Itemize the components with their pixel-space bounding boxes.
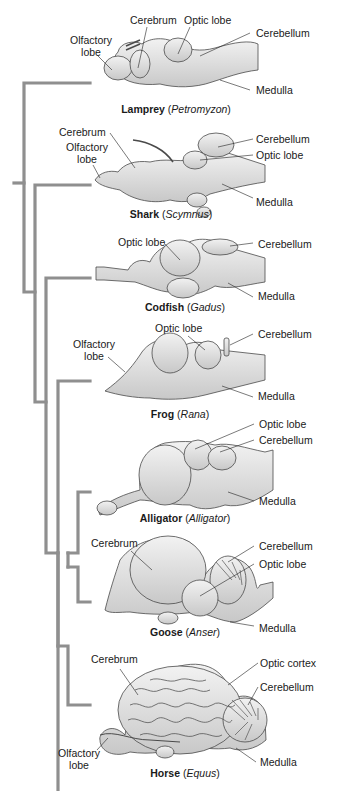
- alligator-label-medulla: Medulla: [259, 495, 296, 507]
- horse-label-medulla: Medulla: [260, 756, 297, 768]
- goose-label-optic-lobe: Optic lobe: [259, 558, 306, 570]
- horse-label-optic-cortex: Optic cortex: [260, 657, 316, 669]
- horse-label-cerebrum: Cerebrum: [91, 653, 138, 665]
- goose-label-cerebellum: Cerebellum: [259, 540, 313, 552]
- caption-alligator: Alligator (Alligator): [130, 512, 240, 524]
- shark-label-medulla: Medulla: [256, 196, 293, 208]
- shark-label-cerebrum: Cerebrum: [59, 126, 106, 138]
- horse-brain: [100, 664, 267, 758]
- shark-label-olfactory-lobe: Olfactorylobe: [63, 141, 111, 165]
- goose-label-medulla: Medulla: [259, 622, 296, 634]
- caption-horse: Horse (Equus): [140, 767, 230, 779]
- shark-label-cerebellum: Cerebellum: [256, 133, 310, 145]
- horse-label-olfactory-lobe: Olfactorylobe: [55, 747, 103, 771]
- shark-brain: [95, 133, 265, 217]
- lamprey-label-cerebrum: Cerebrum: [130, 14, 177, 26]
- frog-label-olfactory-lobe: Olfactorylobe: [70, 338, 118, 362]
- alligator-label-cerebellum: Cerebellum: [259, 434, 313, 446]
- caption-frog: Frog (Rana): [140, 408, 220, 420]
- lamprey-label-cerebellum: Cerebellum: [256, 27, 310, 39]
- frog-label-optic-lobe: Optic lobe: [155, 322, 202, 334]
- alligator-brain: [97, 440, 273, 515]
- frog-label-medulla: Medulla: [258, 390, 295, 402]
- goose-brain: [105, 536, 273, 624]
- frog-label-cerebellum: Cerebellum: [258, 328, 312, 340]
- frog-brain: [105, 333, 265, 399]
- caption-codfish: Codfish (Gadus): [130, 301, 240, 313]
- lamprey-label-medulla: Medulla: [256, 84, 293, 96]
- codfish-label-optic-lobe: Optic lobe: [118, 236, 165, 248]
- codfish-label-cerebellum: Cerebellum: [258, 238, 312, 250]
- lamprey-label-olfactory-lobe: Olfactorylobe: [67, 34, 115, 58]
- caption-goose: Goose (Anser): [140, 626, 230, 638]
- lamprey-label-optic-lobe: Optic lobe: [184, 14, 231, 26]
- caption-lamprey: Lamprey (Petromyzon): [116, 103, 236, 115]
- horse-label-cerebellum: Cerebellum: [260, 681, 314, 693]
- codfish-label-medulla: Medulla: [258, 290, 295, 302]
- caption-shark: Shark (Scymnus): [116, 208, 226, 220]
- goose-label-cerebrum: Cerebrum: [91, 537, 138, 549]
- shark-label-optic-lobe: Optic lobe: [256, 149, 303, 161]
- alligator-label-optic-lobe: Optic lobe: [259, 418, 306, 430]
- lamprey-brain: [104, 38, 258, 87]
